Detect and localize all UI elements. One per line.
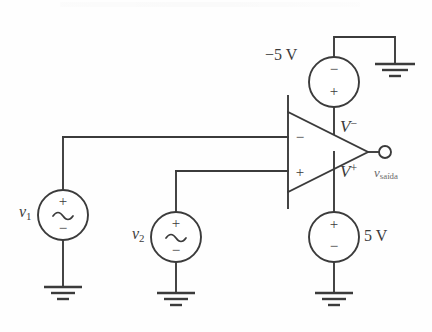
positive-supply-plus-terminal: +	[330, 216, 338, 232]
source-v2: + −	[151, 212, 201, 262]
opamp-negative-rail-label: V−	[340, 118, 357, 135]
positive-supply-label: 5 V	[364, 228, 387, 244]
positive-supply-minus-terminal: −	[330, 238, 338, 254]
output-terminal-circle	[379, 146, 391, 158]
ground-v2	[157, 293, 195, 305]
ground-supply-negative	[375, 64, 415, 76]
circuit-schematic-svg: − + − + + −	[0, 0, 432, 332]
opamp-noninverting-sign: +	[296, 164, 304, 180]
source-positive-supply: + −	[309, 212, 359, 262]
ground-v1	[44, 287, 82, 299]
output-label: vsaída	[374, 166, 398, 181]
opamp-positive-rail-label: V+	[340, 163, 357, 180]
v1-minus-terminal: −	[59, 220, 67, 236]
v2-plus-terminal: +	[172, 215, 180, 231]
source-negative-supply: − +	[309, 57, 359, 107]
negative-supply-plus-terminal: +	[330, 83, 338, 99]
ground-supply-positive	[315, 293, 353, 305]
negative-supply-minus-terminal: −	[330, 61, 338, 77]
opamp-inverting-sign: −	[296, 129, 304, 145]
negative-supply-label: −5 V	[265, 47, 297, 63]
circuit-diagram: − + − + + −	[0, 0, 432, 332]
opamp-body: − +	[288, 96, 368, 208]
v1-label: v1	[19, 204, 32, 222]
v2-minus-terminal: −	[172, 242, 180, 258]
v2-label: v2	[132, 226, 145, 244]
v1-plus-terminal: +	[59, 193, 67, 209]
opamp-output	[368, 146, 391, 158]
source-v1: + −	[38, 190, 88, 240]
